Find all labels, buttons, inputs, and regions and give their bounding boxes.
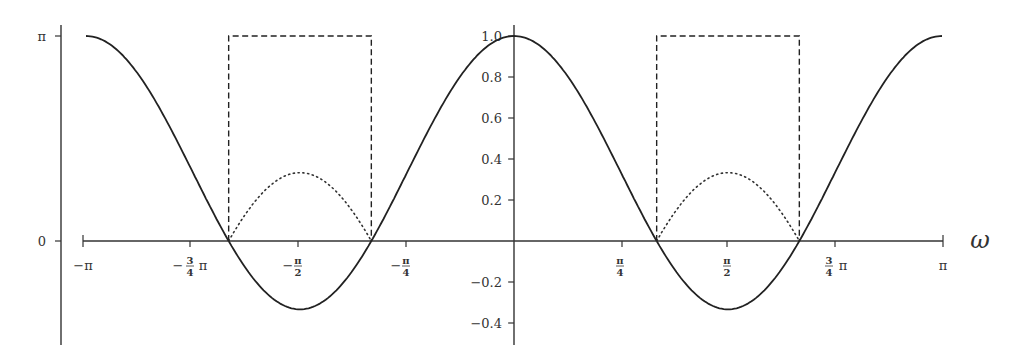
svg-text:−: − — [391, 258, 402, 273]
x-tick-3-4-pi: 3 4 π — [825, 255, 848, 278]
svg-text:4: 4 — [187, 267, 194, 278]
y-tick-0-2: 0.2 — [481, 193, 502, 208]
x-tick-pi-2: π 2 — [723, 255, 731, 278]
left-tick-pi: π — [37, 29, 46, 44]
svg-text:π: π — [402, 255, 409, 266]
left-tick-zero: 0 — [38, 234, 46, 249]
x-tick-pi: π — [939, 258, 948, 273]
svg-text:−: − — [283, 258, 294, 273]
right-y-axis: 1.0 0.8 0.6 0.4 0.2 −0.2 −0.4 — [470, 25, 514, 345]
svg-text:2: 2 — [295, 267, 302, 278]
y-tick-neg-0-2: −0.2 — [470, 275, 502, 290]
svg-text:π: π — [616, 255, 623, 266]
svg-text:π: π — [723, 255, 730, 266]
x-tick-neg-pi-2: − π 2 — [283, 255, 302, 278]
x-axis: −π − 3 4 π − π 2 − π 4 π 4 — [73, 226, 990, 278]
y-tick-0-6: 0.6 — [481, 111, 502, 126]
x-tick-neg-3-4-pi: − 3 4 π — [173, 255, 208, 278]
y-tick-1-0: 1.0 — [481, 29, 502, 44]
svg-text:π: π — [294, 255, 301, 266]
chart-canvas: π 0 1.0 0.8 0.6 0.4 0.2 −0.2 −0.4 −π — [0, 0, 1014, 363]
y-tick-0-8: 0.8 — [481, 70, 502, 85]
svg-text:2: 2 — [724, 267, 731, 278]
svg-text:4: 4 — [617, 267, 624, 278]
x-tick-neg-pi: −π — [73, 258, 93, 273]
y-tick-neg-0-4: −0.4 — [470, 316, 502, 331]
x-tick-neg-pi-4: − π 4 — [391, 255, 410, 278]
x-axis-label-omega: ω — [970, 226, 990, 254]
svg-text:−: − — [173, 258, 184, 273]
svg-text:π: π — [839, 258, 848, 273]
x-tick-pi-4: π 4 — [616, 255, 624, 278]
svg-text:4: 4 — [826, 267, 833, 278]
svg-text:π: π — [199, 258, 208, 273]
svg-text:3: 3 — [826, 255, 833, 266]
left-y-axis: π 0 — [37, 25, 61, 345]
svg-text:4: 4 — [403, 267, 410, 278]
svg-text:3: 3 — [187, 255, 194, 266]
y-tick-0-4: 0.4 — [481, 152, 502, 167]
